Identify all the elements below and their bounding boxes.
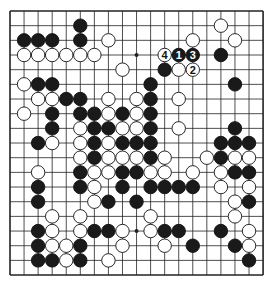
white-stone (158, 151, 171, 164)
white-stone: 4 (158, 48, 171, 61)
black-stone (88, 107, 101, 120)
black-stone (88, 224, 101, 237)
move-number-label: 4 (162, 49, 169, 61)
star-point (135, 229, 139, 233)
white-stone (158, 166, 171, 179)
black-stone (130, 195, 143, 208)
go-board: 4132 (0, 0, 270, 289)
white-stone (45, 48, 58, 61)
black-stone (45, 107, 58, 120)
white-stone (116, 63, 129, 76)
black-stone (74, 92, 87, 105)
white-stone (31, 48, 44, 61)
white-stone (74, 136, 87, 149)
white-stone (45, 210, 58, 223)
white-stone (214, 19, 227, 32)
move-number-label: 3 (190, 49, 196, 61)
black-stone (74, 239, 87, 252)
white-stone (144, 166, 157, 179)
black-stone (74, 107, 87, 120)
white-stone (228, 195, 241, 208)
black-stone (242, 254, 255, 267)
white-stone (17, 107, 30, 120)
white-stone (116, 239, 129, 252)
black-stone (228, 166, 241, 179)
black-stone (116, 180, 129, 193)
white-stone (130, 122, 143, 135)
black-stone (74, 34, 87, 47)
black-stone (31, 224, 44, 237)
black-stone (144, 122, 157, 135)
white-stone (74, 224, 87, 237)
black-stone (45, 122, 58, 135)
black-stone (116, 166, 129, 179)
black-stone (31, 254, 44, 267)
white-stone (88, 195, 101, 208)
white-stone (186, 34, 199, 47)
black-stone (60, 92, 73, 105)
black-stone (116, 107, 129, 120)
black-stone (88, 151, 101, 164)
white-stone (60, 254, 73, 267)
white-stone (172, 122, 185, 135)
white-stone (31, 166, 44, 179)
white-stone (172, 92, 185, 105)
black-stone (172, 180, 185, 193)
black-stone (130, 166, 143, 179)
black-stone (45, 254, 58, 267)
white-stone (45, 92, 58, 105)
black-stone: 3 (186, 48, 199, 61)
black-stone (102, 224, 115, 237)
black-stone (31, 195, 44, 208)
black-stone (158, 63, 171, 76)
white-stone (60, 239, 73, 252)
black-stone (74, 254, 87, 267)
black-stone (74, 166, 87, 179)
white-stone (186, 166, 199, 179)
black-stone (31, 78, 44, 91)
black-stone (214, 224, 227, 237)
white-stone (102, 254, 115, 267)
white-stone (45, 136, 58, 149)
white-stone (31, 92, 44, 105)
white-stone (17, 78, 30, 91)
white-stone (102, 151, 115, 164)
black-stone (88, 122, 101, 135)
black-stone (31, 180, 44, 193)
white-stone (130, 151, 143, 164)
white-stone (130, 107, 143, 120)
white-stone (242, 180, 255, 193)
black-stone (228, 136, 241, 149)
black-stone (130, 136, 143, 149)
white-stone (228, 34, 241, 47)
white-stone (102, 107, 115, 120)
white-stone (88, 166, 101, 179)
move-number-label: 1 (176, 49, 182, 61)
black-stone (144, 151, 157, 164)
black-stone (242, 166, 255, 179)
white-stone (158, 239, 171, 252)
black-stone (45, 78, 58, 91)
white-stone (17, 48, 30, 61)
white-stone (242, 239, 255, 252)
black-stone (158, 180, 171, 193)
black-stone (186, 239, 199, 252)
black-stone (186, 180, 199, 193)
white-stone (88, 180, 101, 193)
black-stone (88, 136, 101, 149)
white-stone (74, 48, 87, 61)
black-stone (158, 224, 171, 237)
white-stone (102, 34, 115, 47)
white-stone (172, 63, 185, 76)
black-stone (214, 48, 227, 61)
black-stone (74, 19, 87, 32)
black-stone (242, 136, 255, 149)
white-stone (102, 136, 115, 149)
black-stone (144, 92, 157, 105)
white-stone (242, 151, 255, 164)
white-stone (60, 48, 73, 61)
black-stone (45, 34, 58, 47)
white-stone (242, 224, 255, 237)
black-stone (31, 136, 44, 149)
white-stone (45, 224, 58, 237)
